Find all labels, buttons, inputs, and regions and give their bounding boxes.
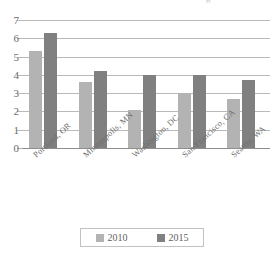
gridline — [22, 38, 270, 39]
legend-item: 2010 — [96, 233, 128, 243]
legend-label-2015: 2015 — [169, 233, 189, 243]
chart-legend: 2010 2015 — [80, 228, 204, 247]
bar-chart: g 01234567 Portland, ORMinneapolis, MNWa… — [0, 0, 278, 264]
y-axis-label: 6 — [14, 33, 20, 44]
cropped-title-remnant: g — [206, 0, 211, 3]
y-axis-label: 2 — [14, 106, 20, 117]
y-axis-label: 3 — [14, 88, 20, 99]
gridline — [22, 20, 270, 21]
y-axis-label: 7 — [14, 15, 20, 26]
bar — [79, 82, 92, 148]
y-axis-label: 5 — [14, 51, 20, 62]
y-axis-label: 4 — [14, 69, 20, 80]
y-axis-label: 1 — [14, 124, 20, 135]
bar — [29, 51, 42, 148]
legend-swatch-2010 — [96, 234, 104, 242]
legend-label-2010: 2010 — [108, 233, 128, 243]
gridline — [22, 57, 270, 58]
legend-item: 2015 — [157, 233, 189, 243]
legend-swatch-2015 — [157, 234, 165, 242]
y-axis-label: 0 — [14, 143, 20, 154]
